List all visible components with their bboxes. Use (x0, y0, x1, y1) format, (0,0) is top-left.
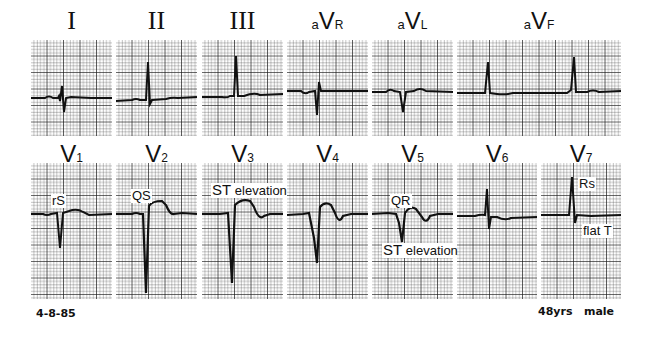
ecg-panel-V7: Rs flat T (541, 163, 621, 299)
ecg-panel-V3: ST elevation (202, 163, 283, 299)
annotation-elevation: elevation (235, 183, 287, 198)
annotation-ST-elevation-V3: ST elevation (211, 183, 288, 198)
lead-main: V (405, 7, 421, 34)
annotation-QS: QS (131, 189, 152, 203)
lead-label-I: I (31, 6, 112, 36)
lead-main: V (531, 7, 547, 34)
annotation-ST-elevation-V5: ST elevation (382, 243, 459, 258)
lead-sub: R (335, 18, 344, 32)
ecg-panel-aVL (372, 40, 453, 136)
lead-label-aVL: aVL (372, 7, 453, 35)
annotation-elevation: elevation (406, 243, 458, 258)
ecg-panel-V2: QS (116, 163, 197, 299)
lead-sub: F (547, 18, 554, 32)
ecg-panel-III (202, 40, 283, 136)
ecg-panel-II (116, 40, 197, 136)
ecg-panel-aVR (287, 40, 368, 136)
annotation-QR: QR (390, 194, 412, 208)
ecg-panel-V1: rS (31, 163, 112, 299)
lead-main: V (319, 7, 335, 34)
annotation-st: ST (212, 181, 231, 198)
annotation-st: ST (383, 241, 402, 258)
lead-prefix: a (524, 17, 531, 32)
lead-prefix: a (312, 17, 319, 32)
annotation-rS: rS (51, 194, 66, 208)
recording-date: 4-8-85 (36, 307, 76, 320)
ecg-panel-V4 (287, 163, 368, 299)
lead-sub: L (421, 18, 428, 32)
lead-label-aVF: aVF (457, 7, 621, 35)
annotation-flat-T: flat T (582, 224, 613, 238)
lead-prefix: a (398, 17, 405, 32)
lead-label-aVR: aVR (287, 7, 368, 35)
lead-label-III: III (202, 6, 283, 36)
ecg-panel-V5: QR ST elevation (372, 163, 453, 299)
ecg-panel-V6 (457, 163, 537, 299)
ecg-panel-aVF (457, 40, 621, 136)
lead-label-II: II (116, 6, 197, 36)
annotation-Rs: Rs (578, 177, 596, 191)
patient-info: 48yrs male (538, 305, 614, 318)
ecg-panel-I (31, 40, 112, 136)
